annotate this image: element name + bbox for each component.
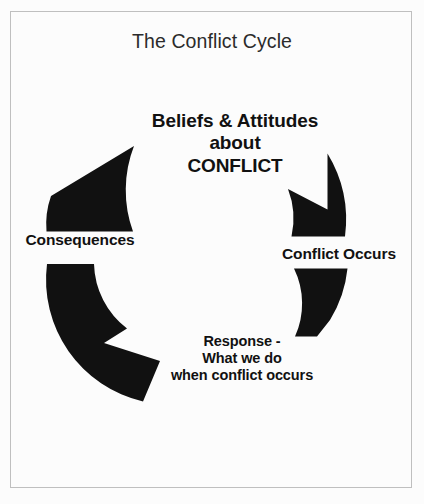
node-label-consequences: Consequences [2, 231, 158, 249]
node-label-response: Response - What we do when conflict occu… [160, 333, 324, 384]
arc-segment-bottom-left-with-arrowhead [46, 264, 160, 402]
arc-segment-bottom-right [294, 269, 348, 337]
center-label-beliefs-attitudes: Beliefs & Attitudes about CONFLICT [120, 110, 350, 177]
node-label-conflict-occurs: Conflict Occurs [255, 245, 423, 263]
conflict-cycle-diagram: The Conflict Cycle Beliefs & Attitudes a… [0, 0, 424, 504]
